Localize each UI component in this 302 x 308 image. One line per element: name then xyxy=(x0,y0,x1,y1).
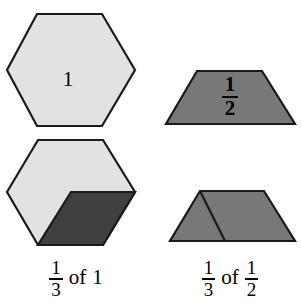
caption-left-denominator: 3 xyxy=(49,280,63,299)
trapezoid-half-label: 1 2 xyxy=(205,74,255,118)
caption-third-of-one: 1 3 of 1 xyxy=(6,258,146,298)
caption-right-operand-fraction: 1 2 xyxy=(245,259,259,299)
fraction-numerator: 1 xyxy=(223,75,238,96)
caption-left-connector: of xyxy=(69,265,87,290)
fraction-one-half: 1 2 xyxy=(222,75,238,119)
caption-right-numerator: 1 xyxy=(202,259,216,278)
caption-left-fraction: 1 3 xyxy=(49,259,63,299)
caption-left-operand: 1 xyxy=(92,265,103,290)
caption-right-operand-numerator: 1 xyxy=(245,259,259,278)
caption-right-connector: of xyxy=(221,265,239,290)
hexagon-whole-label: 1 xyxy=(48,66,88,92)
caption-third-of-half: 1 3 of 1 2 xyxy=(160,258,300,298)
caption-right-operand-denominator: 2 xyxy=(245,280,259,299)
caption-right-fraction: 1 3 xyxy=(202,259,216,299)
caption-right-denominator: 3 xyxy=(202,280,216,299)
caption-left-numerator: 1 xyxy=(49,259,63,278)
fraction-denominator: 2 xyxy=(223,98,238,119)
